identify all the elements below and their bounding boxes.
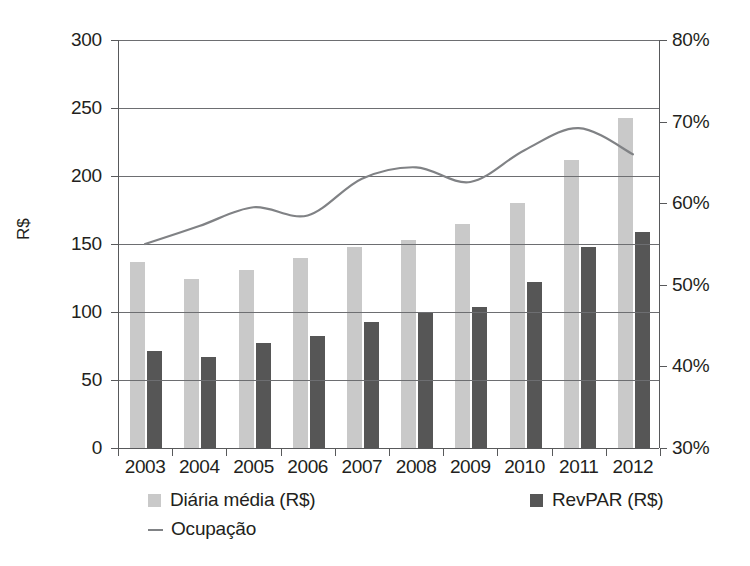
chart-container: R$ 050100150200250300 30%40%50%60%70%80%… <box>0 0 750 566</box>
legend-item-revpar: RevPAR (R$) <box>530 489 663 511</box>
legend-label-ocupacao: Ocupação <box>171 518 256 540</box>
y-axis-left-tick-label: 300 <box>62 29 102 51</box>
gridline <box>119 108 659 109</box>
bar-diaria-media <box>130 262 145 448</box>
bar-revpar <box>310 336 325 448</box>
y-axis-right-tick-label: 60% <box>672 192 742 214</box>
legend: Diária média (R$) RevPAR (R$) Ocupação <box>126 489 666 549</box>
bar-revpar <box>635 232 650 448</box>
x-axis-tick <box>606 448 607 456</box>
bar-diaria-media <box>184 279 199 448</box>
bar-diaria-media <box>510 203 525 448</box>
gridline <box>119 448 659 449</box>
y-axis-right-tick <box>660 122 667 123</box>
bar-revpar <box>472 307 487 448</box>
bar-revpar <box>364 322 379 448</box>
x-axis-tick <box>226 448 227 456</box>
y-axis-left-tick <box>111 448 118 449</box>
y-axis-left-tick-label: 50 <box>62 369 102 391</box>
y-axis-left-tick-label: 150 <box>62 233 102 255</box>
bar-revpar <box>256 343 271 448</box>
x-axis-tick <box>281 448 282 456</box>
bar-diaria-media <box>347 247 362 448</box>
x-axis-tick <box>497 448 498 456</box>
y-axis-right-tick <box>660 285 667 286</box>
x-axis-tick <box>389 448 390 456</box>
bar-revpar <box>147 351 162 448</box>
y-axis-right-tick-label: 50% <box>672 274 742 296</box>
legend-swatch-ocupacao-icon <box>148 529 163 531</box>
legend-swatch-diaria-media-icon <box>148 494 161 507</box>
y-axis-right-tick-label: 40% <box>672 355 742 377</box>
y-axis-left-tick-label: 100 <box>62 301 102 323</box>
y-axis-right-tick <box>660 40 667 41</box>
y-axis-title: R$ <box>14 218 34 240</box>
y-axis-left-tick <box>111 176 118 177</box>
y-axis-right-tick-label: 70% <box>672 111 742 133</box>
gridline <box>119 244 659 245</box>
bar-diaria-media <box>618 118 633 448</box>
y-axis-left-tick-label: 0 <box>62 437 102 459</box>
y-axis-right-tick <box>660 366 667 367</box>
y-axis-left-tick-label: 250 <box>62 97 102 119</box>
x-axis-tick <box>172 448 173 456</box>
gridline <box>119 312 659 313</box>
legend-swatch-revpar-icon <box>530 494 543 507</box>
x-axis-tick <box>335 448 336 456</box>
y-axis-left-tick <box>111 108 118 109</box>
legend-label-revpar: RevPAR (R$) <box>552 489 663 511</box>
gridline <box>119 380 659 381</box>
bar-diaria-media <box>293 258 308 448</box>
legend-item-ocupacao: Ocupação <box>148 518 256 540</box>
bar-diaria-media <box>564 160 579 448</box>
x-axis-tick <box>552 448 553 456</box>
bar-revpar <box>201 357 216 448</box>
y-axis-left-tick <box>111 312 118 313</box>
legend-label-diaria-media: Diária média (R$) <box>170 489 315 511</box>
gridline <box>119 40 659 41</box>
bar-revpar <box>527 282 542 448</box>
y-axis-left-tick <box>111 244 118 245</box>
y-axis-left-tick <box>111 380 118 381</box>
x-axis-tick-label: 2012 <box>598 456 668 478</box>
y-axis-right-tick <box>660 203 667 204</box>
bar-diaria-media <box>401 240 416 448</box>
y-axis-left-tick-label: 200 <box>62 165 102 187</box>
gridline <box>119 176 659 177</box>
legend-item-diaria-media: Diária média (R$) <box>148 489 315 511</box>
x-axis-tick <box>660 448 661 456</box>
x-axis-tick <box>118 448 119 456</box>
y-axis-left-tick <box>111 40 118 41</box>
y-axis-right-tick-label: 80% <box>672 29 742 51</box>
bar-diaria-media <box>239 270 254 448</box>
bar-diaria-media <box>455 224 470 448</box>
x-axis-tick <box>443 448 444 456</box>
y-axis-right-tick-label: 30% <box>672 437 742 459</box>
y-axis-right-tick <box>660 448 667 449</box>
bar-revpar <box>581 247 596 448</box>
plot-area <box>118 40 660 448</box>
